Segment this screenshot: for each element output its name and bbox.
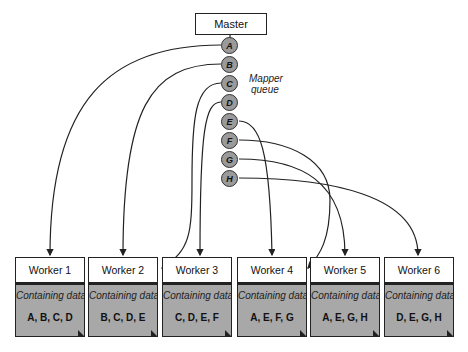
worker-1: Worker 1 Containing data A, B, C, D [15, 257, 85, 337]
page-fold-icon [373, 330, 380, 337]
worker-caption: Containing data [16, 290, 84, 301]
master-node: Master [195, 13, 267, 35]
worker-data: A, B, C, D [16, 312, 84, 323]
arrow-d-worker3 [200, 102, 221, 255]
worker-caption: Containing data [311, 290, 379, 301]
queue-item-b: B [221, 56, 238, 73]
worker-2: Worker 2 Containing data B, C, D, E [88, 257, 158, 337]
worker-label: Worker 1 [16, 258, 84, 285]
page-fold-icon [300, 330, 307, 337]
queue-item-d: D [221, 94, 238, 111]
worker-data: D, E, G, H [385, 312, 453, 323]
page-fold-icon [78, 330, 85, 337]
worker-label: Worker 3 [163, 258, 231, 285]
worker-caption: Containing data [163, 290, 231, 301]
worker-caption: Containing data [385, 290, 453, 301]
worker-6: Worker 6 Containing data D, E, G, H [384, 257, 454, 337]
page-fold-icon [225, 330, 232, 337]
worker-3: Worker 3 Containing data C, D, E, F [162, 257, 232, 337]
queue-item-h: H [221, 170, 238, 187]
worker-label: Worker 2 [89, 258, 157, 285]
worker-5: Worker 5 Containing data A, E, G, H [310, 257, 380, 337]
worker-caption: Containing data [238, 290, 306, 301]
queue-item-a: A [221, 37, 238, 54]
page-fold-icon [151, 330, 158, 337]
queue-item-f: F [221, 132, 238, 149]
worker-caption: Containing data [89, 290, 157, 301]
worker-label: Worker 6 [385, 258, 453, 285]
queue-item-c: C [221, 75, 238, 92]
arrow-c-worker3 [162, 83, 221, 268]
arrow-g-worker5 [239, 159, 345, 255]
mapreduce-diagram: Master A B C D E F G H Mapper queue Work… [0, 0, 468, 352]
worker-data: A, E, G, H [311, 312, 379, 323]
worker-label: Worker 4 [238, 258, 306, 285]
worker-4: Worker 4 Containing data A, E, F, G [237, 257, 307, 337]
worker-label: Worker 5 [311, 258, 379, 285]
page-fold-icon [447, 330, 454, 337]
worker-data: A, E, F, G [238, 312, 306, 323]
worker-data: C, D, E, F [163, 312, 231, 323]
worker-data: B, C, D, E [89, 312, 157, 323]
master-label: Master [214, 18, 248, 30]
queue-item-e: E [221, 113, 238, 130]
mapper-queue-label: Mapper queue [249, 73, 283, 95]
arrow-a-worker1 [50, 45, 221, 255]
arrow-b-worker2 [123, 64, 221, 255]
queue-item-g: G [221, 151, 238, 168]
